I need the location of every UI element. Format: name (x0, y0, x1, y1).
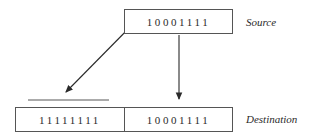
destination-high-byte: 11111111 (15, 107, 125, 132)
source-register: 10001111 (124, 9, 233, 34)
source-bits: 10001111 (147, 16, 211, 28)
destination-label: Destination (246, 113, 297, 125)
destination-low-bits: 10001111 (147, 114, 211, 126)
destination-low-byte: 10001111 (124, 107, 233, 132)
destination-high-bits: 11111111 (39, 114, 101, 126)
source-label: Source (246, 16, 276, 28)
